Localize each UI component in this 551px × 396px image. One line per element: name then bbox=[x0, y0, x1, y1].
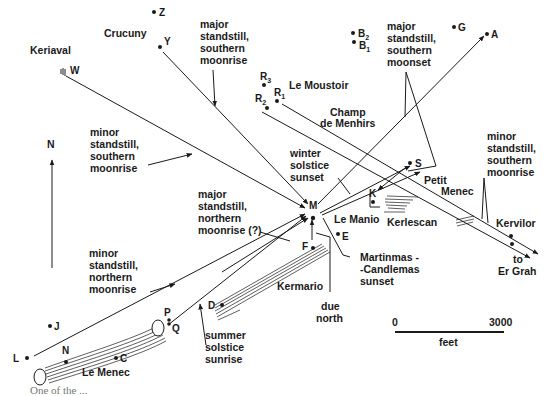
caption-fragment: One of the ... bbox=[30, 384, 88, 396]
scale-start-label: 0 bbox=[392, 316, 398, 328]
site-le-manio: Le Manio bbox=[334, 213, 380, 225]
scale-unit-label: feet bbox=[439, 336, 458, 348]
annotation-winter-solstice-sunset: winter solstice sunset bbox=[289, 147, 332, 183]
point-m: M bbox=[309, 200, 317, 211]
site-champ-de-menhirs: de Menhirs bbox=[320, 117, 376, 129]
annotation-major-southern-moonrise: major standstill, southern moonrise bbox=[200, 18, 252, 66]
point-q: Q bbox=[172, 323, 180, 334]
scale-end-label: 3000 bbox=[489, 316, 513, 328]
carnac-alignments-diagram: N bbox=[0, 0, 551, 396]
point-y: Y bbox=[164, 36, 171, 47]
keriaval-stones bbox=[61, 68, 65, 76]
north-label: N bbox=[47, 138, 55, 150]
point-a: A bbox=[491, 29, 498, 40]
site-crucuny: Crucuny bbox=[104, 27, 147, 39]
point-d: D bbox=[208, 300, 215, 311]
point-z: Z bbox=[159, 7, 165, 18]
site-labels: Keriaval Crucuny Le Moustoir Champ de Me… bbox=[30, 27, 537, 378]
site-kermario: Kermario bbox=[277, 280, 323, 292]
point-e: E bbox=[342, 231, 349, 242]
point-r3: R3 bbox=[260, 71, 271, 84]
point-c: C bbox=[120, 353, 127, 364]
annotation-major-northern-moonrise: major standstill, northern moonrise (?) bbox=[198, 188, 262, 236]
north-arrow-icon: N bbox=[47, 138, 55, 268]
petit-menec-rows bbox=[456, 216, 474, 226]
annotation-due-north: due north bbox=[316, 300, 343, 324]
point-p: P bbox=[164, 307, 171, 318]
kerlescan-rows bbox=[370, 194, 418, 212]
site-to-er-grah: to bbox=[513, 253, 523, 265]
point-k: K bbox=[369, 188, 377, 199]
site-kervilor: Kervilor bbox=[496, 217, 536, 229]
point-r1: R1 bbox=[274, 87, 285, 100]
annotation-martinmas-candlemas-sunset: Martinmas - -Candlemas sunset bbox=[360, 251, 422, 287]
point-n: N bbox=[62, 345, 69, 356]
point-l: L bbox=[13, 353, 19, 364]
point-f: F bbox=[302, 241, 308, 252]
point-w: W bbox=[70, 65, 80, 76]
scale-bar: 0 3000 feet bbox=[392, 316, 513, 348]
annotation-major-southern-moonset: major standstill, southern moonset bbox=[387, 20, 439, 68]
point-j: J bbox=[54, 321, 60, 332]
annotation-minor-southern-moonrise-right: minor standstill, southern moonrise bbox=[487, 130, 539, 178]
point-b1: B1 bbox=[359, 40, 370, 53]
site-petit-menec: Menec bbox=[441, 185, 474, 197]
point-g: G bbox=[458, 22, 466, 33]
annotation-summer-solstice-sunrise: summer solstice sunrise bbox=[205, 329, 249, 365]
site-le-moustoir: Le Moustoir bbox=[289, 79, 349, 91]
point-r2: R2 bbox=[255, 93, 266, 106]
site-le-menec: Le Menec bbox=[82, 366, 130, 378]
annotation-minor-southern-moonrise-left: minor standstill, southern moonrise bbox=[90, 126, 142, 174]
site-keriaval: Keriaval bbox=[30, 44, 71, 56]
site-to-er-grah: Er Grah bbox=[498, 265, 537, 277]
site-kerlescan: Kerlescan bbox=[387, 216, 437, 228]
point-s: S bbox=[415, 158, 422, 169]
annotation-minor-northern-moonrise: minor standstill, northern moonrise bbox=[89, 247, 141, 295]
